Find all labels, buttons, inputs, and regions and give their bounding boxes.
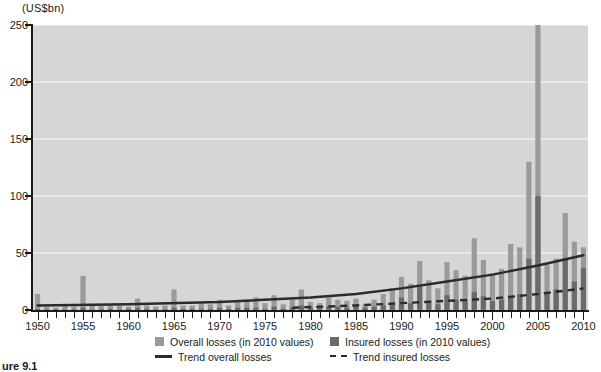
chart-legend: Overall losses (in 2010 values) Insured …	[155, 334, 495, 364]
x-axis-tick-mark	[83, 312, 84, 320]
x-axis-tick-label: 1995	[435, 320, 459, 332]
x-axis-tick-mark	[47, 312, 48, 318]
x-axis-tick-mark	[447, 312, 448, 320]
x-axis-tick-mark	[574, 312, 575, 318]
x-axis-tick-mark	[429, 312, 430, 318]
legend-label-insured-losses: Insured losses (in 2010 values)	[345, 336, 490, 348]
x-axis-tick-mark	[538, 312, 539, 320]
x-axis-tick-mark	[201, 312, 202, 318]
x-axis-tick-label: 1965	[162, 320, 186, 332]
x-axis-tick-mark	[129, 312, 130, 320]
bar-insured-losses	[472, 292, 477, 310]
x-axis-tick-mark	[411, 312, 412, 318]
x-axis-tick-label: 2000	[480, 320, 504, 332]
bar-insured-losses	[572, 282, 577, 311]
x-axis-line	[31, 310, 589, 312]
legend-label-overall-losses: Overall losses (in 2010 values)	[170, 336, 314, 348]
x-axis-tick-mark	[110, 312, 111, 318]
x-axis-tick-mark	[329, 312, 330, 318]
x-axis-tick-mark	[383, 312, 384, 318]
x-axis-tick-mark	[156, 312, 157, 318]
x-axis-tick-label: 2010	[571, 320, 595, 332]
x-axis-tick-mark	[565, 312, 566, 318]
legend-row-trends: Trend overall losses Trend insured losse…	[155, 349, 495, 364]
x-axis-tick-mark	[165, 312, 166, 318]
bar-insured-losses	[563, 259, 568, 310]
trend-insured-line-icon	[330, 352, 347, 361]
y-axis-tick-mark	[25, 138, 31, 140]
insured-losses-swatch-icon	[330, 337, 339, 346]
x-axis-tick-mark	[556, 312, 557, 318]
y-axis-tick-mark	[25, 309, 31, 311]
x-axis-tick-label: 2005	[526, 320, 550, 332]
x-axis-tick-label: 1985	[344, 320, 368, 332]
plot-area	[33, 25, 588, 310]
x-axis-tick-mark	[520, 312, 521, 318]
bar-overall-losses	[35, 294, 40, 310]
x-axis-tick-mark	[347, 312, 348, 318]
x-axis-tick-mark	[92, 312, 93, 318]
x-axis-tick-mark	[74, 312, 75, 318]
x-axis-tick-mark	[220, 312, 221, 320]
x-axis-tick-mark	[174, 312, 175, 320]
x-axis-tick-label: 1990	[389, 320, 413, 332]
x-axis-tick-mark	[256, 312, 257, 318]
bar-insured-losses	[444, 295, 449, 310]
y-axis-tick-mark	[25, 252, 31, 254]
bar-insured-losses	[544, 294, 549, 310]
x-axis-tick-mark	[374, 312, 375, 318]
bar-insured-losses	[417, 286, 422, 310]
x-axis-tick-mark	[511, 312, 512, 318]
x-axis-tick-mark	[547, 312, 548, 318]
x-axis-tick-label: 1960	[116, 320, 140, 332]
x-axis-tick-mark	[583, 312, 584, 320]
x-axis-tick-mark	[456, 312, 457, 318]
legend-item-insured-losses: Insured losses (in 2010 values)	[330, 336, 490, 348]
legend-item-trend-overall: Trend overall losses	[155, 351, 330, 363]
x-axis-tick-mark	[483, 312, 484, 318]
x-axis-tick-mark	[338, 312, 339, 318]
y-axis-tick-mark	[25, 81, 31, 83]
x-axis-tick-mark	[56, 312, 57, 318]
x-axis-tick-mark	[138, 312, 139, 318]
x-axis-tick-mark	[65, 312, 66, 318]
x-axis-tick-mark	[229, 312, 230, 318]
x-axis-tick-mark	[492, 312, 493, 320]
bar-insured-losses	[463, 301, 468, 310]
figure-caption: ure 9.1	[2, 360, 37, 372]
bar-overall-losses	[171, 289, 176, 310]
x-axis-tick-mark	[147, 312, 148, 318]
x-axis-tick-mark	[183, 312, 184, 318]
x-axis-tick-mark	[265, 312, 266, 320]
bar-insured-losses	[490, 301, 495, 310]
x-axis-tick-mark	[502, 312, 503, 318]
x-axis-tick-label: 1950	[25, 320, 49, 332]
x-axis-tick-mark	[283, 312, 284, 318]
trend-overall-line-icon	[155, 352, 172, 361]
x-axis-tick-label: 1955	[71, 320, 95, 332]
x-axis-tick-mark	[301, 312, 302, 318]
x-axis-tick-mark	[119, 312, 120, 318]
legend-row-bars: Overall losses (in 2010 values) Insured …	[155, 334, 495, 349]
chart-container: (US$bn) 050100150200250 1950195519601965…	[0, 0, 601, 372]
x-axis-tick-mark	[356, 312, 357, 320]
legend-label-trend-overall: Trend overall losses	[178, 351, 272, 363]
x-axis-tick-mark	[274, 312, 275, 318]
x-axis-tick-label: 1975	[253, 320, 277, 332]
overall-losses-swatch-icon	[155, 337, 164, 346]
x-axis-tick-mark	[438, 312, 439, 318]
x-axis-tick-mark	[210, 312, 211, 318]
chart-plot-svg	[33, 25, 588, 310]
x-axis-tick-mark	[365, 312, 366, 318]
legend-label-trend-insured: Trend insured losses	[353, 351, 450, 363]
x-axis-tick-mark	[401, 312, 402, 320]
x-axis-tick-mark	[529, 312, 530, 318]
x-axis-tick-mark	[474, 312, 475, 318]
x-axis-tick-mark	[465, 312, 466, 318]
bar-insured-losses	[408, 303, 413, 310]
y-axis-tick-mark	[25, 24, 31, 26]
y-axis-unit-label: (US$bn)	[22, 2, 64, 14]
x-axis-tick-mark	[320, 312, 321, 318]
y-axis-line	[31, 24, 33, 311]
x-axis-tick-mark	[238, 312, 239, 318]
